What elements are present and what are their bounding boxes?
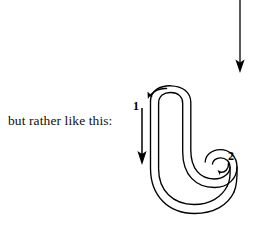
downward-arrow <box>235 0 244 73</box>
stroke-label-1: 1 <box>133 99 139 113</box>
stroke-label-2: 2 <box>228 149 234 163</box>
figure-page: but rather like this: <box>0 0 253 241</box>
stroke-1-down-arrow <box>137 108 146 165</box>
j-hook-outline <box>151 86 238 214</box>
figure-drawing: 1 2 <box>0 0 253 241</box>
